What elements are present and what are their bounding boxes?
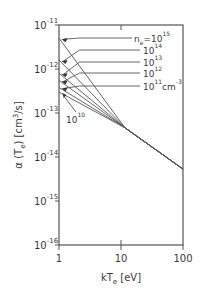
leader-line: [64, 86, 140, 88]
chart: 10-1110-1210-1310-1410-1510-16 110100 ne…: [0, 0, 206, 293]
curve-ne-10-10: [59, 92, 183, 169]
x-axis-label: kTe [eV]: [101, 272, 141, 286]
plot-frame: [59, 25, 183, 245]
plot-border: [59, 25, 183, 245]
density-label: 1010: [66, 111, 85, 125]
y-tick-label: 10-11: [34, 17, 58, 31]
x-tick-label: 100: [173, 253, 192, 264]
x-axis-ticks: 110100: [56, 25, 193, 264]
leader-line: [64, 62, 140, 74]
y-tick-label: 10-14: [34, 149, 59, 163]
density-labels: ne=10151014101310121011cm-31010: [62, 30, 182, 125]
y-axis-ticks: 10-1110-1210-1310-1410-1510-16: [34, 17, 59, 251]
x-tick-label: 10: [115, 253, 128, 264]
y-tick-label: 10-15: [34, 193, 58, 207]
y-axis-label: α (Te) [cm3/s]: [12, 101, 27, 168]
density-label: ne=1015: [134, 30, 170, 46]
leader-line: [64, 73, 140, 81]
curve-ne-10-11-cm-3: [59, 88, 183, 170]
leader-line: [65, 97, 76, 112]
curve-ne-10-15: [59, 38, 183, 169]
x-tick-label: 1: [56, 253, 62, 264]
y-tick-label: 10-16: [34, 237, 59, 251]
leader-line: [64, 38, 132, 39]
density-label: 1011cm-3: [143, 78, 182, 92]
y-tick-label: 10-13: [34, 105, 58, 119]
arrow-head-icon: [62, 38, 68, 42]
recombination-curves: [59, 38, 183, 169]
y-tick-label: 10-12: [34, 61, 58, 75]
